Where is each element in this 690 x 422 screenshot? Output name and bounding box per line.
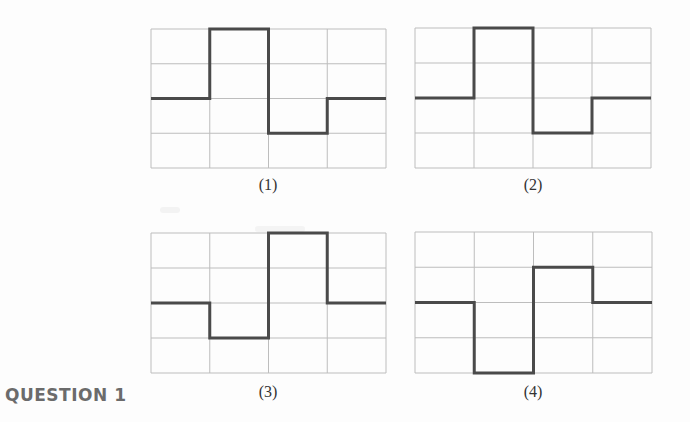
bleed-through-artifact [255, 226, 305, 232]
waveform-line [151, 29, 386, 133]
waveform-graph [151, 233, 386, 373]
waveform-line [151, 233, 386, 338]
waveform-graph [415, 232, 652, 373]
waveform-graph [415, 28, 651, 168]
waveform-line [415, 28, 651, 133]
panel-caption: (1) [238, 176, 298, 194]
waveform-panel-2 [415, 28, 651, 168]
waveform-panel-1 [151, 29, 386, 168]
waveform-panel-3 [151, 233, 386, 373]
waveform-line [415, 267, 652, 373]
panel-caption: (3) [238, 383, 298, 401]
waveform-panel-4 [415, 232, 652, 373]
panel-caption: (4) [503, 383, 563, 401]
question-heading: QUESTION 1 [5, 385, 126, 405]
waveform-graph [151, 29, 386, 168]
panel-caption: (2) [503, 176, 563, 194]
bleed-through-artifact [160, 207, 180, 213]
